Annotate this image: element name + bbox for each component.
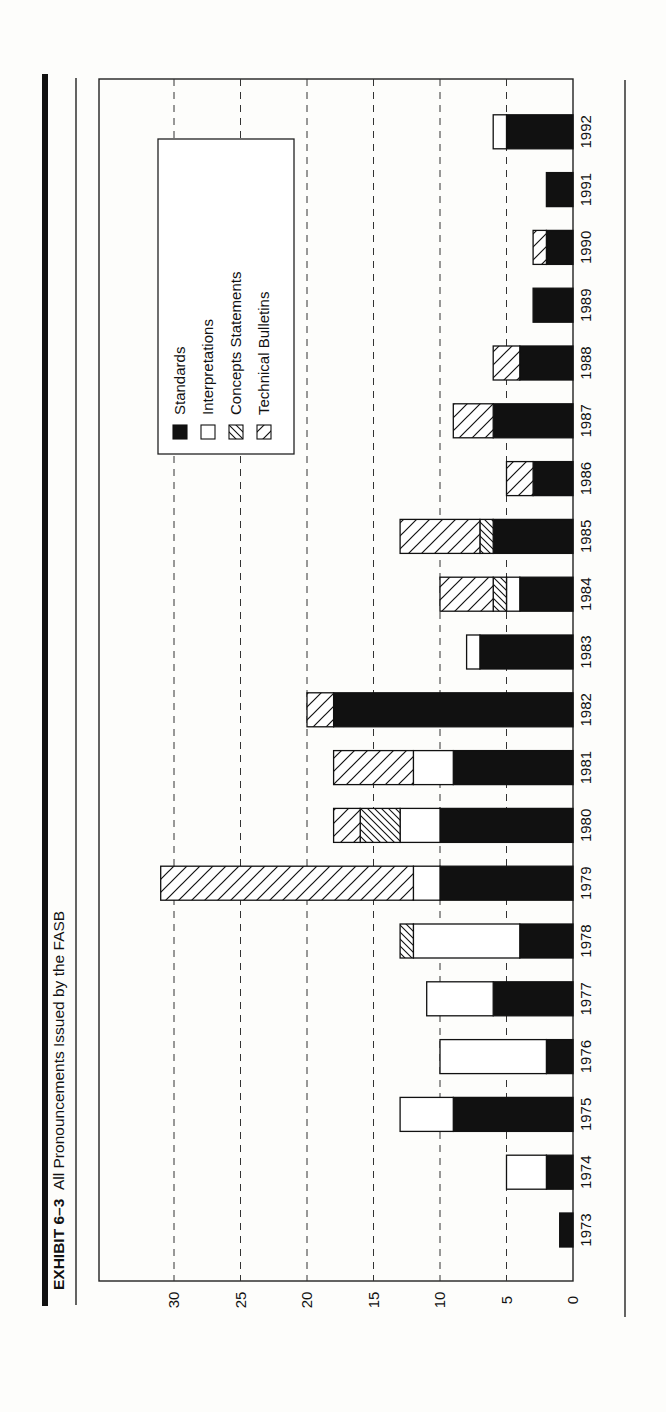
- bar-segment-standards: [520, 577, 573, 611]
- bar-segment-standards: [493, 519, 573, 553]
- bar-segment-technical-bulletins: [440, 577, 493, 611]
- bar-segment-interpretations: [400, 808, 440, 842]
- bar-segment-technical-bulletins: [453, 404, 493, 438]
- category-label: 1984: [577, 578, 594, 611]
- category-label: 1973: [577, 1213, 594, 1246]
- bar-1981: [334, 751, 573, 785]
- bar-1988: [493, 346, 573, 380]
- bar-segment-interpretations: [507, 1155, 547, 1189]
- bar-segment-standards: [533, 462, 573, 496]
- bar-segment-interpretations: [413, 866, 440, 900]
- category-label: 1974: [577, 1156, 594, 1189]
- axis-tick-label: 10: [431, 1292, 448, 1309]
- bar-1974: [507, 1155, 574, 1189]
- exhibit-label: EXHIBIT 6–3: [50, 1198, 67, 1290]
- legend-swatch-concepts: [229, 425, 243, 439]
- legend-label-bulletins: Technical Bulletins: [255, 292, 272, 415]
- bar-segment-interpretations: [440, 1040, 546, 1074]
- bar-segment-technical-bulletins: [400, 519, 480, 553]
- bar-segment-concepts-statements: [360, 808, 400, 842]
- category-label: 1979: [577, 867, 594, 900]
- bar-segment-standards: [546, 230, 573, 264]
- category-label: 1987: [577, 404, 594, 437]
- bar-segment-standards: [560, 1213, 573, 1247]
- category-label: 1978: [577, 924, 594, 957]
- legend-label-standards: Standards: [171, 347, 188, 415]
- bar-1976: [440, 1040, 573, 1074]
- legend-swatch-bulletins: [257, 425, 271, 439]
- bar-segment-standards: [453, 751, 573, 785]
- bar-1991: [546, 173, 573, 207]
- bar-segment-standards: [520, 924, 573, 958]
- axis-tick-label: 0: [564, 1296, 581, 1304]
- bar-segment-technical-bulletins: [334, 751, 414, 785]
- category-label: 1983: [577, 635, 594, 668]
- category-label: 1989: [577, 289, 594, 322]
- bar-segment-standards: [546, 1040, 573, 1074]
- legend: StandardsInterpretationsConcepts Stateme…: [158, 139, 294, 454]
- bar-segment-interpretations: [427, 982, 494, 1016]
- bar-segment-interpretations: [413, 924, 519, 958]
- bar-1992: [493, 115, 573, 149]
- legend-swatch-interpretations: [201, 425, 215, 439]
- axis-tick-label: 5: [498, 1296, 515, 1304]
- bar-segment-concepts-statements: [400, 924, 413, 958]
- bar-segment-standards: [440, 866, 573, 900]
- category-label: 1977: [577, 982, 594, 1015]
- bar-1978: [400, 924, 573, 958]
- category-label: 1992: [577, 115, 594, 148]
- category-label: 1986: [577, 462, 594, 495]
- bar-segment-interpretations: [413, 751, 453, 785]
- bar-segment-interpretations: [493, 115, 506, 149]
- bar-segment-standards: [480, 635, 573, 669]
- category-label: 1988: [577, 346, 594, 379]
- bar-segment-concepts-statements: [493, 577, 506, 611]
- bar-1973: [560, 1213, 573, 1247]
- bar-segment-concepts-statements: [480, 519, 493, 553]
- category-label: 1981: [577, 751, 594, 784]
- bar-segment-technical-bulletins: [507, 462, 534, 496]
- bar-1977: [427, 982, 573, 1016]
- axis-tick-label: 30: [165, 1292, 182, 1309]
- bar-1984: [440, 577, 573, 611]
- axis-tick-label: 20: [298, 1292, 315, 1309]
- bar-1985: [400, 519, 573, 553]
- bar-segment-standards: [533, 288, 573, 322]
- thick-rule: [42, 74, 48, 1306]
- legend-label-interpretations: Interpretations: [199, 319, 216, 415]
- bar-segment-standards: [507, 115, 574, 149]
- bar-segment-interpretations: [507, 577, 520, 611]
- axis-tick-label: 15: [365, 1292, 382, 1309]
- bar-1975: [400, 1097, 573, 1131]
- category-label: 1976: [577, 1040, 594, 1073]
- bar-segment-standards: [493, 982, 573, 1016]
- category-label: 1975: [577, 1098, 594, 1131]
- bar-1987: [453, 404, 573, 438]
- category-label: 1985: [577, 520, 594, 553]
- bar-1990: [533, 230, 573, 264]
- stacked-bar-chart: EXHIBIT 6–3 All Pronouncements Issued by…: [0, 0, 666, 1412]
- bar-segment-standards: [334, 693, 573, 727]
- category-label: 1980: [577, 809, 594, 842]
- bar-1980: [334, 808, 573, 842]
- bar-segment-technical-bulletins: [493, 346, 520, 380]
- bar-segment-standards: [453, 1097, 573, 1131]
- category-label: 1991: [577, 173, 594, 206]
- bar-segment-standards: [546, 1155, 573, 1189]
- axis-tick-label: 25: [232, 1292, 249, 1309]
- category-label: 1982: [577, 693, 594, 726]
- exhibit-heading: All Pronouncements Issued by the FASB: [50, 911, 67, 1190]
- bar-segment-standards: [440, 808, 573, 842]
- bar-segment-standards: [520, 346, 573, 380]
- bar-1979: [161, 866, 573, 900]
- bar-segment-technical-bulletins: [533, 230, 546, 264]
- bar-1982: [307, 693, 573, 727]
- legend-label-concepts: Concepts Statements: [227, 272, 244, 415]
- bar-1986: [507, 462, 574, 496]
- bar-segment-technical-bulletins: [161, 866, 414, 900]
- category-label: 1990: [577, 231, 594, 264]
- bar-segment-interpretations: [400, 1097, 453, 1131]
- bar-1983: [467, 635, 573, 669]
- legend-swatch-standards: [173, 425, 187, 439]
- bar-segment-interpretations: [467, 635, 480, 669]
